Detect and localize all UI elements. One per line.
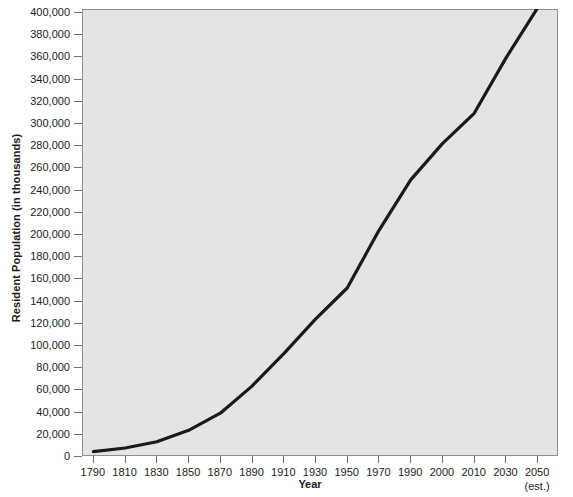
x-axis-tick-mark (474, 456, 475, 463)
y-axis-tick-label: 400,000 (30, 6, 70, 18)
x-axis-tick-label: 1970 (366, 466, 390, 478)
x-axis-tick-mark (537, 456, 538, 463)
x-axis-tick-mark (156, 456, 157, 463)
x-axis-tick-mark (442, 456, 443, 463)
x-axis-tick-mark (315, 456, 316, 463)
y-axis-tick-label: 200,000 (30, 228, 70, 240)
y-axis-tick-label: 140,000 (30, 295, 70, 307)
y-axis-tick-mark (74, 167, 82, 168)
y-axis-tick-label: 360,000 (30, 50, 70, 62)
y-axis-tick-label: 80,000 (36, 361, 70, 373)
y-axis-tick-label: 0 (64, 450, 70, 462)
y-axis-tick-mark (74, 367, 82, 368)
y-axis-tick-label: 100,000 (30, 339, 70, 351)
y-axis-tick-label: 60,000 (36, 383, 70, 395)
x-axis-title: Year (0, 478, 573, 490)
x-axis-tick-label: 1930 (303, 466, 327, 478)
y-axis-tick-mark (74, 79, 82, 80)
y-axis-tick-mark (74, 412, 82, 413)
x-axis-tick-mark (378, 456, 379, 463)
y-axis-tick-label: 220,000 (30, 206, 70, 218)
series-line-resident-population (82, 9, 558, 456)
x-axis-tick-mark (283, 456, 284, 463)
x-axis-tick-label: 1990 (398, 466, 422, 478)
x-axis-tick-label: 1870 (208, 466, 232, 478)
x-axis-tick-mark (505, 456, 506, 463)
y-axis-tick-mark (74, 323, 82, 324)
x-axis-tick-label: 1950 (334, 466, 358, 478)
y-axis-tick-mark (74, 456, 82, 457)
y-axis-tick-mark (74, 234, 82, 235)
y-axis-tick-mark (74, 34, 82, 35)
y-axis-tick-mark (74, 389, 82, 390)
x-axis-tick-label: 1830 (144, 466, 168, 478)
y-axis-tick-label: 40,000 (36, 406, 70, 418)
x-axis-tick-label: 1810 (112, 466, 136, 478)
x-axis-tick-mark (252, 456, 253, 463)
y-axis-tick-label: 20,000 (36, 428, 70, 440)
y-axis-tick-label: 320,000 (30, 95, 70, 107)
y-axis-tick-label: 240,000 (30, 184, 70, 196)
x-axis-tick-mark (347, 456, 348, 463)
x-axis-tick-mark (125, 456, 126, 463)
x-axis-tick-mark (93, 456, 94, 463)
y-axis-tick-label: 260,000 (30, 161, 70, 173)
y-axis-tick-label: 160,000 (30, 272, 70, 284)
y-axis-tick-mark (74, 256, 82, 257)
y-axis-tick-mark (74, 190, 82, 191)
y-axis-tick-label: 380,000 (30, 28, 70, 40)
x-axis-tick-label: 2000 (430, 466, 454, 478)
y-axis-tick-mark (74, 278, 82, 279)
y-axis-tick-mark (74, 56, 82, 57)
y-axis-tick-label: 280,000 (30, 139, 70, 151)
y-axis-tick-label: 120,000 (30, 317, 70, 329)
y-axis-tick-mark (74, 301, 82, 302)
x-axis-tick-label: 1910 (271, 466, 295, 478)
y-axis-tick-mark (74, 434, 82, 435)
x-axis-tick-label: 2010 (461, 466, 485, 478)
y-axis-tick-label: 340,000 (30, 73, 70, 85)
population-line-chart: Resident Population (in thousands) 400,0… (0, 0, 573, 497)
y-axis-tick-group: 400,000380,000360,000340,000320,000300,0… (0, 0, 70, 497)
x-axis-tick-mark (220, 456, 221, 463)
x-axis-tick-label: 1850 (176, 466, 200, 478)
x-axis-tick-label: 2030 (493, 466, 517, 478)
y-axis-tick-mark (74, 123, 82, 124)
y-axis-tick-mark (74, 12, 82, 13)
x-axis-tick-mark (188, 456, 189, 463)
y-axis-tick-mark (74, 145, 82, 146)
x-axis-tick-label: 2050 (525, 466, 549, 478)
x-axis-tick-label: 1890 (239, 466, 263, 478)
x-axis-tick-label: 1790 (81, 466, 105, 478)
y-axis-tick-mark (74, 345, 82, 346)
y-axis-tick-mark (74, 212, 82, 213)
y-axis-tick-label: 180,000 (30, 250, 70, 262)
y-axis-tick-label: 300,000 (30, 117, 70, 129)
y-axis-tick-mark (74, 101, 82, 102)
x-axis-estimate-note: (est.) (525, 480, 550, 492)
x-axis-tick-mark (410, 456, 411, 463)
